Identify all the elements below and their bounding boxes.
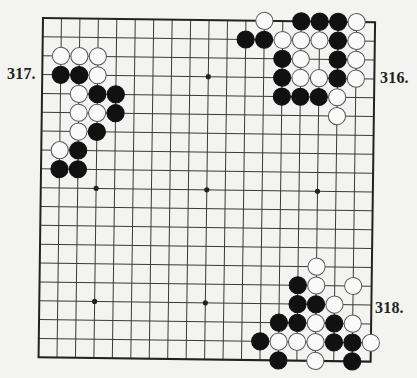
hoshi-point — [203, 300, 208, 305]
black-stone — [52, 66, 69, 83]
white-stone — [347, 51, 364, 68]
hoshi-point — [206, 74, 211, 79]
black-stone — [307, 296, 324, 313]
white-stone — [70, 123, 87, 140]
white-stone — [348, 13, 365, 30]
black-stone — [289, 314, 306, 331]
black-stone — [69, 142, 86, 159]
hoshi-points — [92, 73, 322, 307]
black-stone — [289, 277, 306, 294]
hoshi-point — [92, 299, 97, 304]
white-stone — [344, 277, 361, 294]
white-stone — [89, 67, 106, 84]
white-stone — [347, 70, 364, 87]
black-stone — [292, 88, 309, 105]
white-stone — [308, 277, 325, 294]
black-stone — [237, 31, 254, 48]
white-stone — [292, 69, 309, 86]
black-stone — [274, 50, 291, 67]
white-stone — [52, 47, 69, 64]
black-stone — [293, 13, 310, 30]
black-stone — [289, 295, 306, 312]
white-stone — [307, 333, 324, 350]
black-stone — [326, 315, 343, 332]
white-stone — [70, 104, 87, 121]
board-grid-group — [38, 9, 383, 370]
black-stone — [107, 86, 124, 103]
white-stone — [274, 31, 291, 48]
white-stone — [310, 69, 327, 86]
problem-label-316: 316. — [380, 69, 409, 87]
black-stone — [69, 161, 86, 178]
white-stone — [89, 48, 106, 65]
problem-label-317: 317. — [7, 65, 36, 83]
white-stone — [256, 12, 273, 29]
black-stone — [107, 104, 124, 121]
black-stone — [270, 352, 287, 369]
white-stone — [51, 141, 68, 158]
white-stone — [292, 50, 309, 67]
black-stone — [311, 13, 328, 30]
white-stone — [70, 85, 87, 102]
black-stone — [89, 85, 106, 102]
black-stone — [310, 88, 327, 105]
white-stone — [348, 32, 365, 49]
white-stone — [307, 314, 324, 331]
black-stone — [329, 51, 346, 68]
black-stone — [88, 123, 105, 140]
black-stone — [273, 88, 290, 105]
black-stone — [329, 70, 346, 87]
hoshi-point — [204, 187, 209, 192]
go-board — [0, 0, 417, 378]
black-stone — [270, 314, 287, 331]
white-stone — [311, 32, 328, 49]
black-stone — [251, 333, 268, 350]
white-stone — [344, 315, 361, 332]
black-stone — [329, 13, 346, 30]
white-stone — [362, 334, 379, 351]
white-stone — [307, 352, 324, 369]
white-stone — [308, 258, 325, 275]
white-stone — [88, 104, 105, 121]
black-stone — [329, 32, 346, 49]
hoshi-point — [93, 186, 98, 191]
black-stone — [70, 66, 87, 83]
white-stone — [71, 47, 88, 64]
black-stone — [325, 334, 342, 351]
black-stone — [255, 31, 272, 48]
white-stone — [328, 89, 345, 106]
white-stone — [326, 296, 343, 313]
black-stone — [273, 69, 290, 86]
hoshi-point — [315, 189, 320, 194]
problem-label-318: 318. — [375, 299, 404, 317]
white-stone — [328, 107, 345, 124]
white-stone — [270, 333, 287, 350]
black-stone — [51, 160, 68, 177]
white-stone — [288, 333, 305, 350]
black-stone — [343, 353, 360, 370]
black-stone — [344, 334, 361, 351]
white-stone — [292, 32, 309, 49]
